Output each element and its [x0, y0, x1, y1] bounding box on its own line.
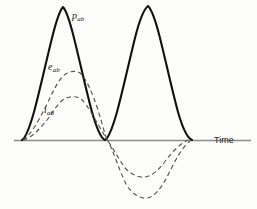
power-waveform-figure: pab eab iab Time — [0, 0, 257, 209]
label-voltage-e-ab: eab — [48, 62, 60, 74]
label-power-p-ab: pab — [72, 11, 84, 23]
label-current-i-ab: iab — [44, 105, 54, 117]
waveform-plot — [0, 0, 257, 209]
label-current-subscript: ab — [47, 109, 54, 117]
x-axis-label-time: Time — [214, 136, 234, 145]
label-voltage-subscript: ab — [53, 66, 60, 74]
voltage-curve-e-ab — [23, 71, 188, 177]
label-power-subscript: ab — [77, 15, 84, 23]
